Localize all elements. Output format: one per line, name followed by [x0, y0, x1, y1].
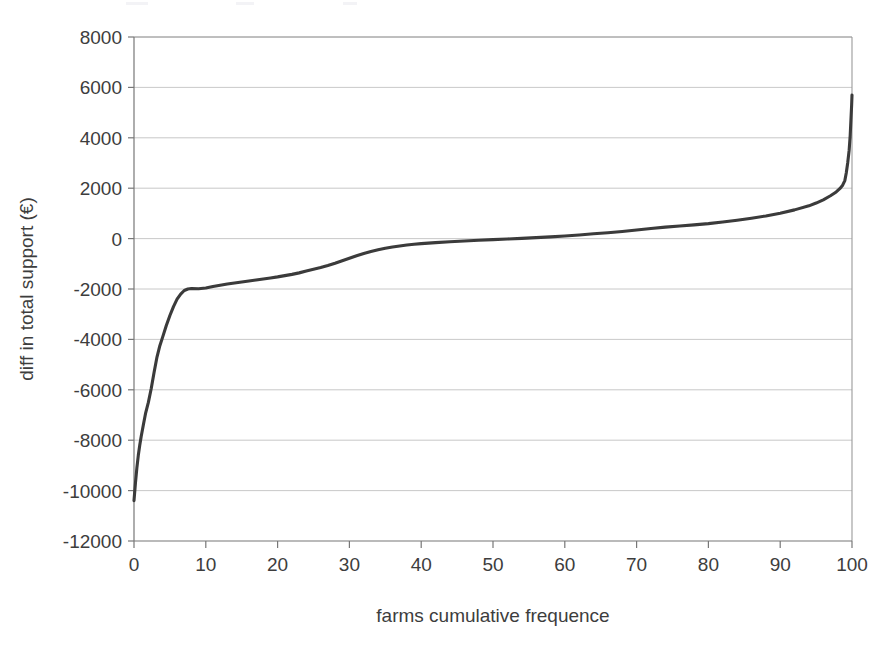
x-axis-ticks: [134, 541, 852, 548]
y-tick-label: -8000: [73, 430, 122, 451]
x-tick-label: 80: [698, 554, 719, 575]
x-tick-label: 50: [482, 554, 503, 575]
scan-artifacts: [126, 2, 357, 5]
chart-container: -12000-10000-8000-6000-4000-200002000400…: [0, 0, 896, 648]
gridlines: [134, 37, 852, 491]
x-tick-label: 40: [411, 554, 432, 575]
x-tick-label: 90: [770, 554, 791, 575]
x-axis-title: farms cumulative frequence: [376, 605, 609, 626]
x-tick-label: 70: [626, 554, 647, 575]
line-chart: -12000-10000-8000-6000-4000-200002000400…: [0, 0, 896, 648]
y-axis-title: diff in total support (€): [16, 197, 37, 380]
x-axis-tick-labels: 0102030405060708090100: [129, 554, 868, 575]
y-tick-label: 4000: [80, 128, 122, 149]
y-tick-label: 8000: [80, 27, 122, 48]
y-axis-tick-labels: -12000-10000-8000-6000-4000-200002000400…: [63, 27, 122, 552]
x-tick-label: 20: [267, 554, 288, 575]
x-tick-label: 100: [836, 554, 868, 575]
y-tick-label: -4000: [73, 329, 122, 350]
y-tick-label: 2000: [80, 178, 122, 199]
y-tick-label: -12000: [63, 531, 122, 552]
y-tick-label: -10000: [63, 481, 122, 502]
x-tick-label: 30: [339, 554, 360, 575]
y-tick-label: -2000: [73, 279, 122, 300]
x-tick-label: 10: [195, 554, 216, 575]
x-tick-label: 0: [129, 554, 140, 575]
y-tick-label: 6000: [80, 77, 122, 98]
x-tick-label: 60: [554, 554, 575, 575]
y-tick-label: 0: [111, 229, 122, 250]
y-axis-ticks: [128, 37, 134, 541]
y-tick-label: -6000: [73, 380, 122, 401]
